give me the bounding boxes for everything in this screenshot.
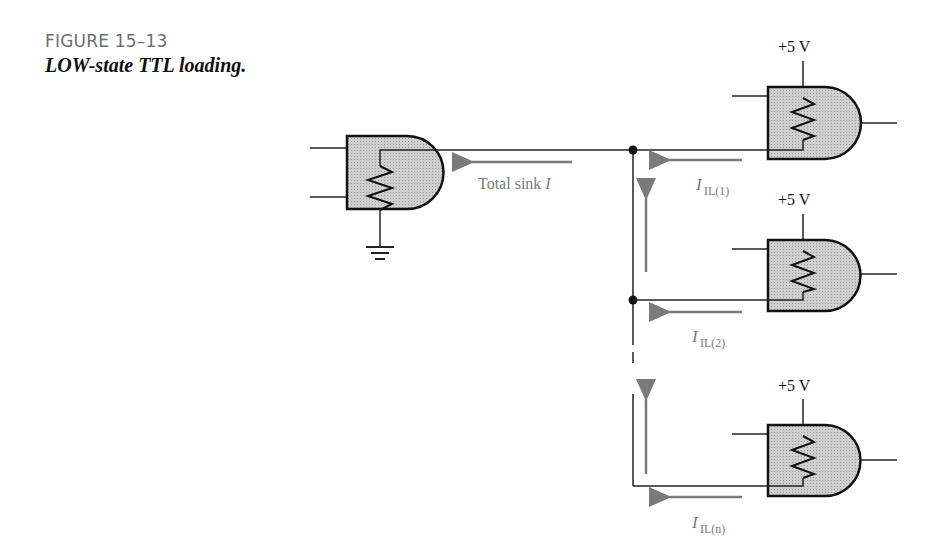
total-sink-label: Total sink I — [478, 175, 551, 192]
supply-label: +5 V — [778, 38, 811, 55]
ground-icon — [366, 247, 394, 259]
figure: FIGURE 15–13 LOW-state TTL loading. — [0, 0, 945, 559]
current-subscript: IL(2) — [700, 336, 725, 350]
load-gate-2: +5 V I IL(2) — [633, 191, 897, 350]
circuit-diagram: Total sink I +5 V I IL(1) +5 V — [0, 0, 945, 559]
driver-gate: Total sink I — [310, 136, 633, 259]
current-label: I — [695, 175, 703, 194]
current-subscript: IL(n) — [700, 522, 725, 536]
and-gate-body — [347, 136, 444, 209]
load-gate-n: +5 V I IL(n) — [633, 377, 897, 536]
current-label: I — [691, 327, 699, 346]
and-gate-body — [768, 87, 861, 159]
supply-label: +5 V — [778, 191, 811, 208]
current-label: I — [691, 513, 699, 532]
load-gate-1: +5 V I IL(1) — [633, 38, 897, 198]
current-subscript: IL(1) — [704, 184, 729, 198]
supply-label: +5 V — [778, 377, 811, 394]
